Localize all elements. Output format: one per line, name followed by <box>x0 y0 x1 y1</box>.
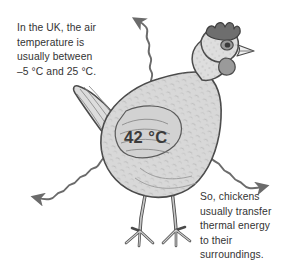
thermal-arrow-left <box>34 158 104 199</box>
chicken-foot-left <box>126 228 153 246</box>
caption-thermal-transfer: So, chickens usually transfer thermal en… <box>200 190 271 263</box>
chicken-legs <box>126 190 190 246</box>
caption-air-temperature: In the UK, the air temperature is usuall… <box>17 21 96 79</box>
chicken-comb <box>206 23 240 41</box>
chicken-beak <box>237 45 254 56</box>
thermal-arrow-right <box>206 152 266 188</box>
body-temperature-label: 42 °C <box>124 128 167 147</box>
chicken-eye <box>221 40 233 50</box>
chicken-wattle <box>219 58 235 75</box>
chicken-foot-right <box>163 227 190 246</box>
thermal-energy-figure: 42 °C In the UK, the air temperature is … <box>0 0 303 279</box>
